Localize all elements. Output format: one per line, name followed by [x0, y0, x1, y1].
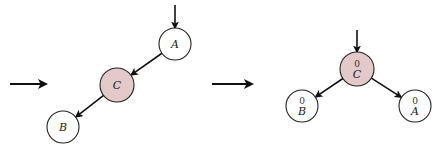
node-label: C — [353, 68, 362, 81]
after-edge-c-b — [316, 78, 343, 96]
before-node-a: A — [159, 28, 191, 60]
tree-before-rotation: ACB — [47, 5, 191, 143]
after-node-b: 0B — [286, 90, 318, 122]
before-edge-a-c — [131, 53, 162, 75]
node-label: A — [410, 105, 419, 118]
before-node-c: C — [100, 68, 134, 102]
avl-rotation-diagram: ACB 0C0B0A — [0, 0, 436, 144]
after-node-a: 0A — [399, 90, 431, 122]
node-label: B — [297, 105, 306, 118]
node-label: A — [170, 38, 179, 51]
after-edge-c-a — [371, 78, 401, 97]
node-label: C — [113, 79, 122, 92]
before-edge-c-b — [76, 95, 104, 116]
before-node-b: B — [47, 111, 79, 143]
node-label: B — [58, 121, 67, 134]
tree-after-rotation: 0C0B0A — [286, 30, 431, 122]
after-node-c: 0C — [340, 52, 374, 86]
